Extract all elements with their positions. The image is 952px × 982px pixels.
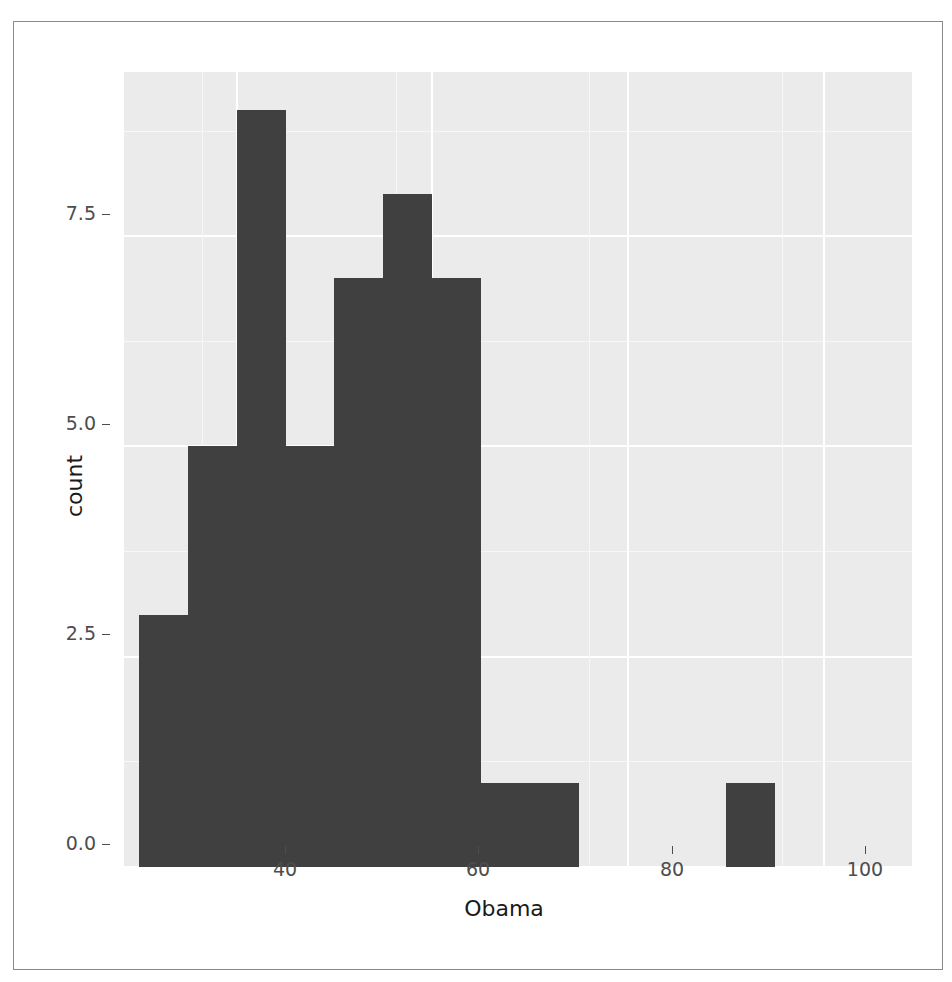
grid-major-v-80 [627,72,629,867]
grid-minor-v-70 [589,72,590,867]
x-tick-label-80: 80 [632,860,712,879]
grid-major-v-100 [823,72,825,867]
histogram-bar [530,783,579,867]
histogram-bar [334,278,383,867]
histogram-figure: 7.5 5.0 2.5 0.0 40 60 80 100 count Obama [0,0,952,982]
y-axis-title: count [62,455,87,517]
grid-minor-v-90 [782,72,783,867]
x-axis-title: Obama [110,896,898,921]
x-tick-mark-80 [672,846,673,854]
x-tick-label-100: 100 [825,860,905,879]
figure-frame: 7.5 5.0 2.5 0.0 40 60 80 100 count Obama [13,21,943,970]
y-tick-mark-0.0 [102,844,110,845]
y-tick-mark-5.0 [102,424,110,425]
histogram-bar [383,194,432,867]
y-tick-label-0.0: 0.0 [24,834,96,853]
histogram-bar [726,783,775,867]
x-tick-mark-60 [478,846,479,854]
histogram-bar [481,783,530,867]
x-tick-mark-40 [285,846,286,854]
y-tick-label-7.5: 7.5 [24,204,96,223]
histogram-bar [432,278,481,867]
histogram-bar [286,446,335,867]
histogram-bar [139,615,188,867]
plot-panel [124,72,912,867]
histogram-bar [237,110,286,867]
x-tick-mark-100 [865,846,866,854]
y-tick-label-5.0: 5.0 [24,414,96,433]
y-tick-mark-2.5 [102,634,110,635]
histogram-bar [188,446,237,867]
y-tick-label-2.5: 2.5 [24,624,96,643]
x-tick-label-40: 40 [245,860,325,879]
x-tick-label-60: 60 [438,860,518,879]
y-tick-mark-7.5 [102,214,110,215]
